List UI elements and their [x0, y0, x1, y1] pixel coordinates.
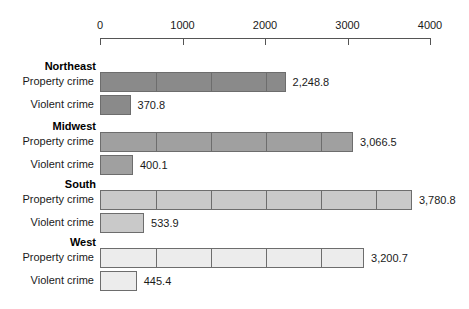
- bar-segment-divider: [156, 73, 157, 91]
- axis-tick-label-3000: 3000: [335, 19, 359, 31]
- bar-row-label: Violent crime: [0, 98, 94, 111]
- bar-south-violent[interactable]: [100, 213, 144, 233]
- bar-segment-divider: [266, 249, 267, 267]
- bar-midwest-property[interactable]: [100, 132, 353, 152]
- axis-tick-label-4000: 4000: [418, 19, 442, 31]
- bar-row: Property crime3,200.7: [0, 247, 469, 269]
- axis-tick-4000: [430, 38, 431, 45]
- bar-row: Property crime3,066.5: [0, 131, 469, 153]
- bar-row: Property crime2,248.8: [0, 71, 469, 93]
- bar-west-violent[interactable]: [100, 271, 137, 291]
- crime-rate-bar-chart: 01000200030004000 NortheastProperty crim…: [0, 0, 469, 309]
- bar-segment-divider: [321, 191, 322, 209]
- region-group-west: WestProperty crime3,200.7Violent crime44…: [0, 236, 469, 294]
- bar-west-property[interactable]: [100, 248, 364, 268]
- bar-value-label: 2,248.8: [293, 76, 330, 88]
- axis-tick-label-2000: 2000: [253, 19, 277, 31]
- region-group-midwest: MidwestProperty crime3,066.5Violent crim…: [0, 120, 469, 178]
- bar-row-label: Violent crime: [0, 274, 94, 287]
- bar-row-label: Violent crime: [0, 216, 94, 229]
- bar-segment-divider: [211, 191, 212, 209]
- axis-tick-label-1000: 1000: [170, 19, 194, 31]
- axis-tick-1000: [183, 38, 184, 45]
- bar-northeast-violent[interactable]: [100, 95, 131, 115]
- bar-row-label: Property crime: [0, 75, 94, 88]
- bar-value-label: 445.4: [144, 275, 172, 287]
- bar-row: Violent crime400.1: [0, 154, 469, 176]
- axis-tick-3000: [348, 38, 349, 45]
- region-group-south: SouthProperty crime3,780.8Violent crime5…: [0, 178, 469, 236]
- bar-segment-divider: [156, 191, 157, 209]
- bar-value-label: 3,780.8: [419, 194, 456, 206]
- axis-tick-0: [100, 38, 101, 45]
- bar-south-property[interactable]: [100, 190, 412, 210]
- bar-value-label: 3,066.5: [360, 136, 397, 148]
- bar-row: Violent crime445.4: [0, 270, 469, 292]
- axis-tick-2000: [265, 38, 266, 45]
- bar-row: Property crime3,780.8: [0, 189, 469, 211]
- bar-row-label: Property crime: [0, 251, 94, 264]
- bar-segment-divider: [321, 133, 322, 151]
- bar-segment-divider: [156, 133, 157, 151]
- bar-segment-divider: [266, 191, 267, 209]
- bar-segment-divider: [266, 133, 267, 151]
- bar-row-label: Property crime: [0, 193, 94, 206]
- bar-segment-divider: [211, 249, 212, 267]
- bar-row: Violent crime370.8: [0, 94, 469, 116]
- bar-segment-divider: [211, 133, 212, 151]
- bar-segment-divider: [156, 249, 157, 267]
- bar-segment-divider: [266, 73, 267, 91]
- bar-segment-divider: [321, 249, 322, 267]
- bar-northeast-property[interactable]: [100, 72, 286, 92]
- bar-segment-divider: [376, 191, 377, 209]
- bar-value-label: 3,200.7: [371, 252, 408, 264]
- bar-row-label: Violent crime: [0, 158, 94, 171]
- bar-value-label: 533.9: [151, 217, 179, 229]
- bar-row: Violent crime533.9: [0, 212, 469, 234]
- bar-midwest-violent[interactable]: [100, 155, 133, 175]
- bar-row-label: Property crime: [0, 135, 94, 148]
- region-group-northeast: NortheastProperty crime2,248.8Violent cr…: [0, 60, 469, 118]
- bar-segment-divider: [211, 73, 212, 91]
- axis-tick-label-0: 0: [97, 19, 103, 31]
- bar-value-label: 400.1: [140, 159, 168, 171]
- bar-value-label: 370.8: [138, 99, 166, 111]
